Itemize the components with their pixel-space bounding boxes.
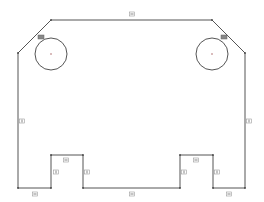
sketch-edge[interactable] [212, 20, 245, 53]
horizontal-constraint-icon [194, 158, 199, 162]
vertex-point[interactable] [179, 154, 181, 156]
vertex-point[interactable] [50, 154, 52, 156]
vertex-point[interactable] [82, 154, 84, 156]
tangent-constraint-icon [221, 35, 227, 39]
vertex-point[interactable] [17, 52, 19, 54]
horizontal-constraint-icon [64, 158, 69, 162]
horizontal-constraint-icon [130, 192, 135, 196]
right-hole-center-point[interactable] [211, 53, 213, 55]
horizontal-constraint-icon [227, 192, 232, 196]
sketch-circles[interactable] [35, 38, 228, 70]
vertical-constraint-icon [215, 170, 220, 174]
left-hole-center-point[interactable] [50, 53, 52, 55]
sketch-profile[interactable] [17, 19, 246, 189]
vertex-point[interactable] [212, 154, 214, 156]
vertical-constraint-icon [20, 119, 25, 123]
sketch-edge[interactable] [18, 20, 51, 53]
horizontal-constraint-icon [130, 12, 135, 16]
constraint-markers [20, 12, 252, 196]
vertex-point[interactable] [211, 19, 213, 21]
vertex-point[interactable] [50, 187, 52, 189]
sketch-canvas[interactable] [0, 0, 264, 202]
vertical-constraint-icon [182, 170, 187, 174]
vertical-constraint-icon [85, 170, 90, 174]
vertex-point[interactable] [212, 187, 214, 189]
tangent-constraint-icon [38, 35, 44, 39]
vertex-point[interactable] [244, 52, 246, 54]
vertical-constraint-icon [247, 119, 252, 123]
vertex-point[interactable] [82, 187, 84, 189]
vertex-point[interactable] [50, 19, 52, 21]
vertex-point[interactable] [17, 187, 19, 189]
vertex-point[interactable] [179, 187, 181, 189]
vertex-point[interactable] [244, 187, 246, 189]
horizontal-constraint-icon [33, 192, 38, 196]
vertical-constraint-icon [54, 170, 59, 174]
